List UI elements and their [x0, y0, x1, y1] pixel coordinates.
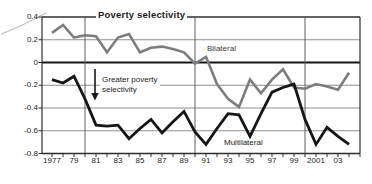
- x-tick-label-2003: 03: [325, 156, 351, 165]
- chart-title: Poverty selectivity: [96, 9, 187, 20]
- y-tick-label: 0.2: [8, 35, 38, 44]
- greater-poverty-annotation: Greater poverty selectivity: [100, 75, 160, 94]
- y-tick-label: -0.2: [8, 80, 38, 89]
- series-layer: [52, 25, 349, 144]
- y-tick-label: 0.4: [8, 12, 38, 21]
- y-tick-label: 0: [8, 58, 38, 67]
- annotation-line-1: Greater poverty: [102, 75, 158, 85]
- annotation-line-2: selectivity: [102, 85, 158, 95]
- bilateral-series-label: Bilateral: [207, 44, 236, 53]
- y-tick-label: -0.4: [8, 103, 38, 112]
- multilateral-series-label: Multilateral: [224, 138, 263, 147]
- multilateral-line: [52, 76, 349, 144]
- poverty-selectivity-chart: Poverty selectivity Bilateral Multilater…: [0, 0, 372, 184]
- y-tick-label: -0.6: [8, 126, 38, 135]
- y-tick-label: -0.8: [8, 149, 38, 158]
